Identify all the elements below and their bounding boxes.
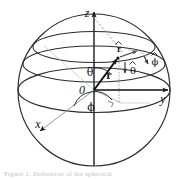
- x-axis: [40, 90, 94, 131]
- r-hat-unit-vector: [120, 51, 137, 57]
- theta-hat-label-group: θ: [130, 62, 137, 77]
- phi-hat-unit-vector: [144, 56, 148, 64]
- spherical-coordinates-diagram: z y x 0 r θ ϕ r θ ϕ: [0, 0, 179, 179]
- figure-caption: Figure 1. Definition of the spherical: [4, 170, 179, 178]
- x-axis-label: x: [34, 117, 41, 131]
- theta-hat-label: θ: [130, 65, 136, 76]
- phi-hat-label: ϕ: [152, 56, 159, 67]
- z-axis-label: z: [84, 6, 90, 20]
- spherical-coordinates-figure: z y x 0 r θ ϕ r θ ϕ Figure 1. Definition…: [0, 0, 179, 179]
- y-axis-label: y: [159, 92, 166, 106]
- point-p-marker: [117, 57, 120, 60]
- theta-angle-label: θ: [87, 66, 94, 79]
- r-hat-label-group: r: [116, 42, 122, 55]
- r-hat-label: r: [117, 44, 122, 54]
- position-vector-label: r: [106, 68, 112, 82]
- phi-angle-label: ϕ: [87, 101, 95, 114]
- right-angle-marker: [108, 101, 113, 107]
- origin-label: 0: [79, 83, 85, 97]
- caption-strip: Figure 1. Definition of the spherical: [0, 170, 179, 179]
